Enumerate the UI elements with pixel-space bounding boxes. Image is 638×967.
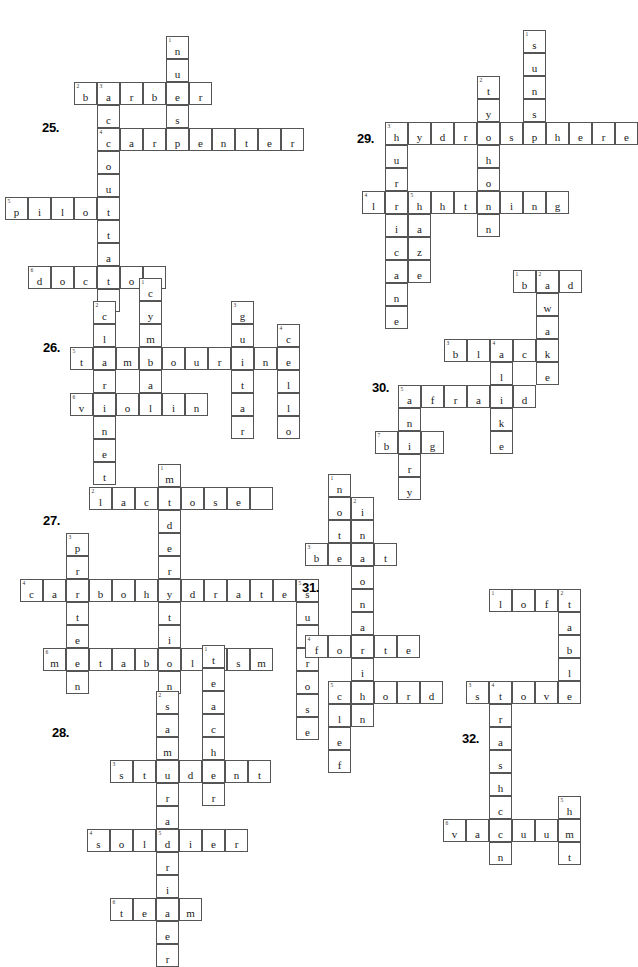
crossword-cell[interactable]: s bbox=[204, 487, 227, 510]
crossword-cell[interactable]: i bbox=[385, 214, 408, 237]
crossword-cell[interactable]: b bbox=[143, 82, 166, 105]
crossword-cell[interactable]: e bbox=[227, 487, 250, 510]
crossword-cell[interactable]: o bbox=[158, 648, 181, 671]
crossword-cell[interactable]: 5c bbox=[328, 681, 351, 704]
crossword-cell[interactable]: 3a bbox=[97, 82, 120, 105]
crossword-cell[interactable]: a bbox=[112, 487, 135, 510]
crossword-cell[interactable]: r bbox=[281, 128, 304, 151]
crossword-cell[interactable]: o bbox=[51, 266, 74, 289]
crossword-cell[interactable]: n bbox=[351, 589, 374, 612]
crossword-cell[interactable]: o bbox=[512, 681, 535, 704]
crossword-cell[interactable]: o bbox=[74, 197, 97, 220]
crossword-cell[interactable]: i bbox=[162, 393, 185, 416]
crossword-cell[interactable]: n bbox=[351, 520, 374, 543]
crossword-cell[interactable]: 3g bbox=[231, 301, 254, 324]
crossword-cell[interactable]: 4c bbox=[20, 579, 43, 602]
crossword-cell[interactable]: l bbox=[93, 324, 116, 347]
crossword-cell[interactable]: n bbox=[351, 704, 374, 727]
crossword-cell[interactable]: c bbox=[513, 339, 536, 362]
crossword-cell[interactable]: 1b bbox=[513, 270, 536, 293]
crossword-cell[interactable]: r bbox=[156, 783, 179, 806]
crossword-cell[interactable]: 3s bbox=[466, 681, 489, 704]
crossword-cell[interactable]: 4l bbox=[362, 191, 385, 214]
crossword-cell[interactable]: c bbox=[202, 714, 225, 737]
crossword-cell[interactable]: 4t bbox=[489, 681, 512, 704]
crossword-cell[interactable]: n bbox=[225, 760, 248, 783]
crossword-cell[interactable]: e bbox=[536, 362, 559, 385]
crossword-cell[interactable]: n bbox=[212, 128, 235, 151]
crossword-cell[interactable]: u bbox=[97, 174, 120, 197]
crossword-cell[interactable]: r bbox=[385, 168, 408, 191]
crossword-cell[interactable]: n bbox=[254, 347, 277, 370]
crossword-cell[interactable]: 5a bbox=[398, 385, 421, 408]
crossword-cell[interactable]: e bbox=[93, 439, 116, 462]
crossword-cell[interactable]: n bbox=[66, 671, 89, 694]
crossword-cell[interactable]: t bbox=[133, 760, 156, 783]
crossword-cell[interactable]: r bbox=[208, 347, 231, 370]
crossword-cell[interactable]: 6m bbox=[43, 648, 66, 671]
crossword-cell[interactable]: u bbox=[166, 59, 189, 82]
crossword-cell[interactable]: d bbox=[431, 122, 454, 145]
crossword-cell[interactable]: a bbox=[558, 612, 581, 635]
crossword-cell[interactable]: u bbox=[535, 819, 558, 842]
crossword-cell[interactable]: d bbox=[181, 579, 204, 602]
crossword-cell[interactable]: e bbox=[408, 260, 431, 283]
crossword-cell[interactable]: o bbox=[477, 122, 500, 145]
crossword-cell[interactable]: 1c bbox=[139, 278, 162, 301]
crossword-cell[interactable]: 6t bbox=[110, 898, 133, 921]
crossword-cell[interactable]: n bbox=[477, 191, 500, 214]
crossword-cell[interactable]: 6v bbox=[70, 393, 93, 416]
crossword-cell[interactable]: i bbox=[93, 393, 116, 416]
crossword-cell[interactable]: r bbox=[66, 556, 89, 579]
crossword-cell[interactable]: u bbox=[296, 602, 319, 625]
crossword-cell[interactable]: a bbox=[231, 393, 254, 416]
crossword-cell[interactable]: l bbox=[133, 829, 156, 852]
crossword-cell[interactable]: e bbox=[258, 128, 281, 151]
crossword-cell[interactable]: d bbox=[513, 385, 536, 408]
crossword-cell[interactable]: t bbox=[248, 760, 271, 783]
crossword-cell[interactable]: a bbox=[351, 543, 374, 566]
crossword-cell[interactable]: m bbox=[139, 324, 162, 347]
crossword-cell[interactable]: h bbox=[135, 579, 158, 602]
crossword-cell[interactable]: e bbox=[328, 543, 351, 566]
crossword-cell[interactable]: e bbox=[133, 898, 156, 921]
crossword-cell[interactable]: c bbox=[489, 819, 512, 842]
crossword-cell[interactable]: e bbox=[158, 533, 181, 556]
crossword-cell[interactable]: r bbox=[444, 385, 467, 408]
crossword-cell[interactable]: n bbox=[523, 191, 546, 214]
crossword-cell[interactable]: o bbox=[116, 393, 139, 416]
crossword-cell[interactable]: t bbox=[97, 266, 120, 289]
crossword-cell[interactable]: e bbox=[277, 347, 300, 370]
crossword-cell[interactable]: s bbox=[227, 648, 250, 671]
crossword-cell[interactable]: t bbox=[158, 602, 181, 625]
crossword-cell[interactable]: o bbox=[374, 681, 397, 704]
crossword-cell[interactable]: d bbox=[420, 681, 443, 704]
crossword-cell[interactable]: 6d bbox=[28, 266, 51, 289]
crossword-cell[interactable]: f bbox=[328, 750, 351, 773]
crossword-cell[interactable]: i bbox=[231, 347, 254, 370]
crossword-cell[interactable]: 1n bbox=[166, 36, 189, 59]
crossword-cell[interactable]: r bbox=[202, 783, 225, 806]
crossword-cell[interactable]: 5d bbox=[156, 829, 179, 852]
crossword-cell[interactable]: 4c bbox=[97, 128, 120, 151]
crossword-cell[interactable]: g bbox=[546, 191, 569, 214]
crossword-cell[interactable]: t bbox=[558, 842, 581, 865]
crossword-cell[interactable]: e bbox=[397, 635, 420, 658]
crossword-cell[interactable]: 2c bbox=[93, 301, 116, 324]
crossword-cell[interactable]: v bbox=[535, 681, 558, 704]
crossword-cell[interactable]: s bbox=[489, 750, 512, 773]
crossword-cell[interactable]: 3p bbox=[66, 533, 89, 556]
crossword-cell[interactable]: a bbox=[202, 691, 225, 714]
crossword-cell[interactable]: o bbox=[296, 671, 319, 694]
crossword-cell[interactable]: 2a bbox=[536, 270, 559, 293]
crossword-cell[interactable]: a bbox=[227, 579, 250, 602]
crossword-cell[interactable]: 5h bbox=[558, 796, 581, 819]
crossword-cell[interactable]: t bbox=[97, 220, 120, 243]
crossword-cell[interactable]: a bbox=[408, 214, 431, 237]
crossword-cell[interactable]: s bbox=[523, 99, 546, 122]
crossword-cell[interactable]: u bbox=[231, 324, 254, 347]
crossword-cell[interactable]: i bbox=[158, 625, 181, 648]
crossword-cell[interactable]: t bbox=[374, 543, 397, 566]
crossword-cell[interactable]: u bbox=[512, 819, 535, 842]
crossword-cell[interactable]: 2t bbox=[558, 589, 581, 612]
